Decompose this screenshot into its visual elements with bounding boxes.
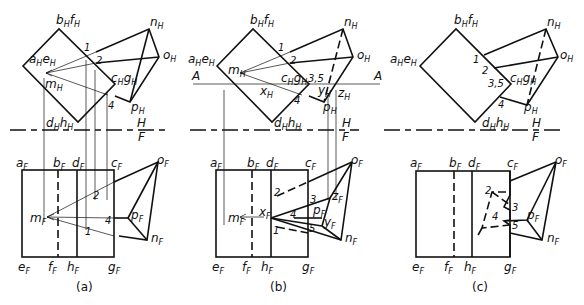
panel-a: bHfH nH oH aHeH mH cHgH pH dHhH 1 2 4 H …	[10, 13, 176, 294]
pyramid-top-view-a	[96, 29, 159, 102]
svg-text:zH: zH	[337, 86, 350, 102]
svg-text:hF: hF	[464, 260, 477, 276]
svg-text:cHgH: cHgH	[510, 71, 536, 87]
svg-text:dHhH: dHhH	[46, 116, 73, 132]
svg-text:bF: bF	[247, 156, 260, 172]
svg-text:4: 4	[108, 100, 114, 111]
svg-text:bHfH: bHfH	[250, 13, 274, 29]
svg-text:nH: nH	[547, 15, 561, 31]
svg-text:1: 1	[273, 225, 279, 236]
svg-text:fF: fF	[48, 260, 57, 276]
prism-top-view-a	[23, 29, 115, 122]
svg-text:pH: pH	[322, 100, 337, 116]
svg-text:F: F	[138, 130, 146, 144]
caption-b: (b)	[270, 280, 287, 294]
svg-text:xF: xF	[258, 205, 271, 221]
svg-text:dHhH: dHhH	[274, 116, 301, 132]
svg-text:H: H	[342, 116, 351, 130]
svg-text:oF: oF	[157, 153, 169, 169]
svg-text:fF: fF	[242, 260, 251, 276]
svg-text:4: 4	[498, 99, 504, 110]
svg-text:2: 2	[93, 190, 99, 201]
svg-text:dF: dF	[468, 156, 481, 172]
caption-c: (c)	[472, 280, 488, 294]
svg-text:F: F	[532, 130, 540, 144]
svg-text:aF: aF	[410, 156, 422, 172]
svg-text:gF: gF	[108, 260, 121, 276]
svg-text:zF: zF	[331, 189, 343, 205]
svg-text:pF: pF	[526, 208, 540, 224]
svg-text:5: 5	[512, 220, 518, 231]
svg-text:bF: bF	[53, 156, 66, 172]
svg-text:gF: gF	[504, 260, 517, 276]
svg-text:dF: dF	[266, 156, 279, 172]
svg-text:cF: cF	[305, 156, 317, 172]
svg-text:4: 4	[294, 95, 300, 106]
svg-text:3: 3	[512, 202, 518, 213]
svg-text:2: 2	[290, 55, 296, 66]
svg-text:2: 2	[274, 187, 280, 198]
svg-text:aHeH: aHeH	[29, 52, 56, 68]
svg-text:bHfH: bHfH	[56, 13, 80, 29]
panel-c: bHfH nH oH aHeH cHgH pH dHhH 1 2 3,5 4 H…	[384, 13, 573, 294]
svg-text:cHgH: cHgH	[111, 71, 137, 87]
svg-text:fF: fF	[444, 260, 453, 276]
svg-text:nH: nH	[150, 15, 164, 31]
svg-text:4: 4	[105, 215, 111, 226]
svg-text:cHgH: cHgH	[281, 71, 307, 87]
svg-text:oH: oH	[560, 48, 573, 64]
svg-text:A: A	[191, 69, 200, 83]
svg-text:1: 1	[473, 54, 479, 65]
svg-text:mF: mF	[228, 211, 245, 227]
svg-text:mH: mH	[45, 77, 63, 93]
svg-text:1: 1	[278, 42, 284, 53]
svg-text:yH: yH	[317, 83, 331, 99]
svg-text:pF: pF	[130, 208, 144, 224]
svg-text:hF: hF	[67, 260, 80, 276]
svg-text:2: 2	[482, 65, 488, 76]
svg-text:4: 4	[492, 211, 498, 222]
svg-text:dF: dF	[72, 156, 85, 172]
panel-b: A A bHfH nH oH aHeH mH cHgH 3,5 xH yH zH…	[14, 0, 382, 294]
svg-text:aHeH: aHeH	[188, 52, 215, 68]
svg-text:cF: cF	[111, 156, 123, 172]
svg-text:oH: oH	[163, 48, 176, 64]
svg-text:bF: bF	[449, 156, 462, 172]
svg-text:2: 2	[485, 185, 491, 196]
svg-text:nH: nH	[344, 15, 358, 31]
svg-text:oF: oF	[555, 153, 567, 169]
svg-text:aF: aF	[210, 156, 222, 172]
svg-text:bHfH: bHfH	[454, 13, 478, 29]
descriptive-geometry-figure: bHfH nH oH aHeH mH cHgH pH dHhH 1 2 4 H …	[0, 0, 584, 305]
svg-text:cF: cF	[507, 156, 519, 172]
svg-text:xH: xH	[259, 84, 273, 100]
svg-text:2: 2	[96, 55, 102, 66]
svg-text:5: 5	[309, 223, 315, 234]
svg-text:1: 1	[84, 42, 90, 53]
svg-text:4: 4	[290, 209, 296, 220]
caption-a: (a)	[76, 280, 93, 294]
svg-text:H: H	[137, 116, 146, 130]
svg-text:H: H	[532, 116, 541, 130]
svg-text:yF: yF	[323, 215, 336, 231]
svg-text:dHhH: dHhH	[482, 116, 509, 132]
svg-text:eF: eF	[212, 260, 224, 276]
svg-text:3,5: 3,5	[488, 78, 504, 89]
svg-text:eF: eF	[18, 260, 30, 276]
svg-text:aF: aF	[16, 156, 28, 172]
svg-text:nF: nF	[345, 231, 358, 247]
svg-text:pH: pH	[523, 100, 538, 116]
svg-text:oH: oH	[357, 48, 370, 64]
svg-text:hF: hF	[261, 260, 274, 276]
svg-text:eF: eF	[412, 260, 424, 276]
svg-text:1: 1	[85, 226, 91, 237]
svg-text:gF: gF	[302, 260, 315, 276]
svg-text:A: A	[373, 69, 382, 83]
svg-text:F: F	[342, 130, 350, 144]
svg-text:3: 3	[310, 194, 316, 205]
svg-text:oF: oF	[351, 153, 363, 169]
svg-text:mH: mH	[228, 63, 246, 79]
svg-text:aHeH: aHeH	[390, 52, 417, 68]
svg-text:nF: nF	[547, 231, 560, 247]
svg-text:nF: nF	[151, 231, 164, 247]
